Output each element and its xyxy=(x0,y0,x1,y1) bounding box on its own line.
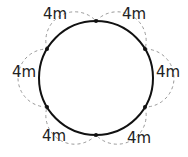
point xyxy=(45,105,49,109)
point xyxy=(94,133,98,137)
label-right: 4m xyxy=(156,65,180,80)
point xyxy=(45,47,49,51)
point xyxy=(94,19,98,23)
label-top-right: 4m xyxy=(122,7,146,22)
dashed-arcs xyxy=(18,12,174,144)
label-left: 4m xyxy=(12,65,36,80)
point xyxy=(143,47,147,51)
point xyxy=(143,105,147,109)
label-bottom-right: 4m xyxy=(127,131,151,146)
diagram-canvas: 4m 4m 4m 4m 4m 4m xyxy=(0,0,188,157)
label-bottom-left: 4m xyxy=(42,129,66,144)
label-top-left: 4m xyxy=(43,7,67,22)
main-circle xyxy=(39,21,153,135)
points xyxy=(45,19,147,137)
